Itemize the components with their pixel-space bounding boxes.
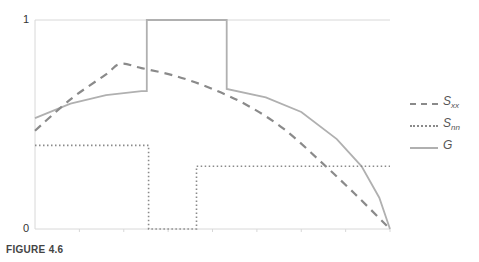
series-snn-line <box>35 145 390 229</box>
series-sxx-line <box>35 64 390 229</box>
chart-plot <box>0 0 479 262</box>
legend-label-sxx: Sxx <box>443 94 459 110</box>
legend-item-snn: Snn <box>410 116 479 138</box>
legend: Sxx Snn G <box>410 94 479 160</box>
series-g-line <box>35 20 390 229</box>
axes <box>35 20 390 232</box>
figure-caption: FIGURE 4.6 <box>6 244 63 255</box>
legend-label-snn: Snn <box>443 116 460 132</box>
dotted-line-icon <box>410 125 438 127</box>
series-layer <box>35 20 390 229</box>
y-tick-label-0: 0 <box>23 222 29 234</box>
dashed-line-icon <box>410 103 438 105</box>
legend-label-g: G <box>443 138 452 154</box>
y-tick-label-1: 1 <box>23 13 29 25</box>
legend-item-g: G <box>410 138 479 160</box>
solid-line-icon <box>410 147 438 149</box>
legend-item-sxx: Sxx <box>410 94 479 116</box>
